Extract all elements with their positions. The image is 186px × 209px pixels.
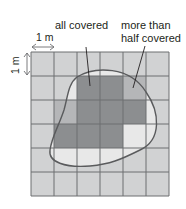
grid-cell bbox=[31, 172, 54, 196]
grid-cell bbox=[146, 148, 169, 172]
fully-covered-cell bbox=[77, 100, 100, 124]
horizontal-double-arrow-icon bbox=[32, 44, 54, 50]
fully-covered-cell bbox=[123, 100, 146, 124]
fully-covered-cell bbox=[77, 76, 100, 100]
grid-cell bbox=[54, 52, 77, 76]
fully-covered-cell bbox=[100, 76, 123, 100]
grid-cell bbox=[100, 172, 123, 196]
fully-covered-cell bbox=[77, 124, 100, 148]
grid-cell bbox=[54, 172, 77, 196]
more-than-half-label-line2: half covered bbox=[121, 32, 181, 44]
grid-cell bbox=[77, 172, 100, 196]
fully-covered-cell bbox=[100, 100, 123, 124]
area-estimation-diagram: all covered more than half covered 1 m 1… bbox=[0, 0, 186, 209]
more-than-half-label-line1: more than bbox=[121, 19, 171, 31]
grid-cell bbox=[31, 76, 54, 100]
vertical-unit-label: 1 m bbox=[9, 56, 21, 74]
grid-cell bbox=[123, 172, 146, 196]
grid-cell bbox=[31, 52, 54, 76]
all-covered-label: all covered bbox=[55, 19, 108, 31]
vertical-double-arrow-icon bbox=[24, 53, 30, 75]
grid-cell bbox=[146, 52, 169, 76]
fully-covered-cell bbox=[100, 124, 123, 148]
grid-cell bbox=[146, 172, 169, 196]
grid-cell bbox=[31, 100, 54, 124]
horizontal-unit-label: 1 m bbox=[36, 31, 54, 43]
